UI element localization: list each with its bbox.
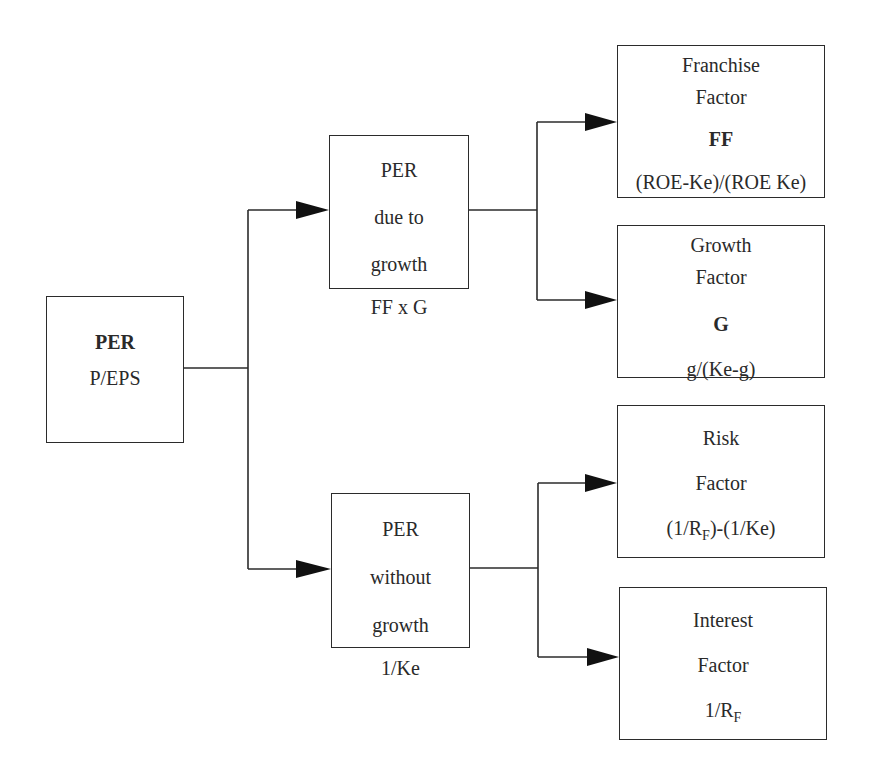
arrowhead-icon <box>296 560 331 578</box>
node-title-line: without <box>332 565 469 590</box>
node-per-without-growth: PER without growth 1/Ke <box>331 493 470 648</box>
node-formula: P/EPS <box>47 366 183 391</box>
node-title-line: growth <box>330 252 468 277</box>
formula-subscript: F <box>702 528 710 543</box>
node-title-line: due to <box>330 205 468 230</box>
node-symbol: G <box>618 312 824 337</box>
node-title-line: Growth <box>618 233 824 258</box>
formula-part: 1/R <box>705 699 734 721</box>
node-formula: FF x G <box>330 295 468 320</box>
node-title-line: Franchise <box>618 53 824 78</box>
node-symbol: FF <box>618 127 824 152</box>
node-title-line: Risk <box>618 426 824 451</box>
node-formula: g/(Ke-g) <box>618 357 824 382</box>
node-risk-factor: Risk Factor (1/RF)-(1/Ke) <box>617 405 825 558</box>
node-formula: 1/RF <box>620 698 826 723</box>
formula-subscript: F <box>734 710 742 725</box>
arrowhead-icon <box>585 113 617 131</box>
node-per-root: PER P/EPS <box>46 296 184 443</box>
node-title-line: PER <box>330 158 468 183</box>
arrowhead-icon <box>585 291 617 309</box>
arrowhead-icon <box>585 474 617 492</box>
node-formula: 1/Ke <box>332 656 469 681</box>
node-title-line: Interest <box>620 608 826 633</box>
arrowhead-icon <box>296 201 329 219</box>
node-title-line: Factor <box>618 85 824 110</box>
node-interest-factor: Interest Factor 1/RF <box>619 587 827 740</box>
node-formula: (1/RF)-(1/Ke) <box>618 516 824 541</box>
arrowhead-icon <box>587 648 619 666</box>
formula-part: )-(1/Ke) <box>710 517 776 539</box>
node-title-line: growth <box>332 613 469 638</box>
node-title-line: Factor <box>618 471 824 496</box>
node-title-line: PER <box>332 517 469 542</box>
node-symbol: PER <box>47 330 183 355</box>
node-per-due-to-growth: PER due to growth FF x G <box>329 135 469 289</box>
node-title-line: Factor <box>620 653 826 678</box>
node-franchise-factor: Franchise Factor FF (ROE-Ke)/(ROE Ke) <box>617 45 825 198</box>
node-formula: (ROE-Ke)/(ROE Ke) <box>618 170 824 195</box>
node-title-line: Factor <box>618 265 824 290</box>
node-growth-factor: Growth Factor G g/(Ke-g) <box>617 225 825 378</box>
formula-part: (1/R <box>667 517 703 539</box>
